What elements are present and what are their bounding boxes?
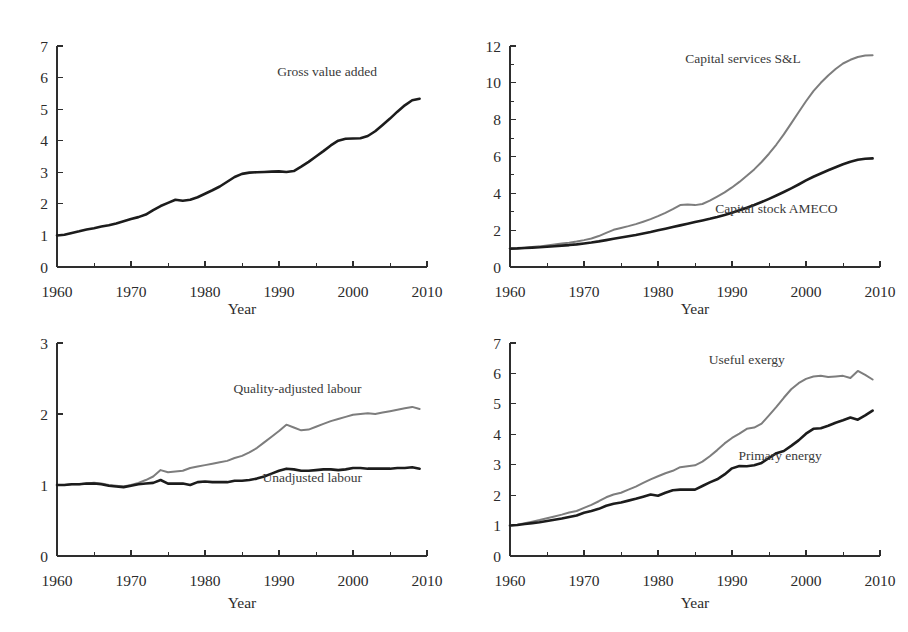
x-axis-title: Year xyxy=(228,594,257,611)
y-tick-label: 12 xyxy=(486,38,502,55)
y-tick-label: 0 xyxy=(493,259,501,276)
x-tick-label: 1980 xyxy=(643,572,674,589)
y-tick-label: 0 xyxy=(40,259,48,276)
panel-bottom-right-plot: 01234567196019701980199020002010Useful e… xyxy=(493,335,896,612)
panel-bottom-left: 0123196019701980199020002010Quality-adju… xyxy=(0,316,454,626)
x-tick-label: 2010 xyxy=(412,283,443,300)
series-annotation: Capital services S&L xyxy=(685,51,800,66)
y-tick-label: 1 xyxy=(493,517,501,534)
panel-top-left: 01234567196019701980199020002010Gross va… xyxy=(0,14,454,316)
y-tick-label: 4 xyxy=(493,185,501,202)
y-tick-label: 3 xyxy=(493,456,501,473)
y-tick-label: 0 xyxy=(40,548,48,565)
y-tick-label: 6 xyxy=(40,69,48,86)
series-annotation: Capital stock AMECO xyxy=(715,201,837,216)
x-tick-label: 1970 xyxy=(569,572,600,589)
x-tick-label: 1990 xyxy=(717,283,748,300)
y-tick-label: 5 xyxy=(40,101,48,118)
x-tick-label: 2000 xyxy=(338,572,369,589)
series-line-capital-services-s-l xyxy=(510,55,873,248)
panel-top-right: 024681012196019701980199020002010Capital… xyxy=(454,14,908,316)
panel-top-left-plot: 01234567196019701980199020002010Gross va… xyxy=(40,38,443,317)
x-tick-label: 1980 xyxy=(190,283,221,300)
y-tick-label: 5 xyxy=(493,395,501,412)
x-tick-label: 1990 xyxy=(717,572,748,589)
x-tick-label: 2000 xyxy=(338,283,369,300)
x-axis-title: Year xyxy=(681,594,710,611)
y-tick-label: 0 xyxy=(493,548,501,565)
panel-bottom-right: 01234567196019701980199020002010Useful e… xyxy=(454,316,908,626)
series-annotation: Quality-adjusted labour xyxy=(234,381,362,396)
x-tick-label: 1980 xyxy=(643,283,674,300)
y-tick-label: 2 xyxy=(40,195,48,212)
y-tick-label: 4 xyxy=(40,132,48,149)
y-tick-label: 2 xyxy=(40,406,48,423)
x-tick-label: 1980 xyxy=(190,572,221,589)
four-panel-chart-figure: 01234567196019701980199020002010Gross va… xyxy=(0,0,908,632)
y-tick-label: 6 xyxy=(493,148,501,165)
x-tick-label: 1990 xyxy=(264,572,295,589)
x-tick-label: 1960 xyxy=(42,283,73,300)
y-tick-label: 8 xyxy=(493,111,501,128)
series-annotation: Gross value added xyxy=(277,64,377,79)
y-tick-label: 10 xyxy=(486,74,502,91)
panel-bottom-left-svg: 0123196019701980199020002010Quality-adju… xyxy=(0,316,454,626)
panel-bottom-right-svg: 01234567196019701980199020002010Useful e… xyxy=(454,316,908,626)
y-tick-label: 2 xyxy=(493,222,501,239)
series-line-primary-energy xyxy=(510,411,873,526)
y-tick-label: 2 xyxy=(493,487,501,504)
y-tick-label: 7 xyxy=(493,335,501,352)
y-tick-label: 3 xyxy=(40,335,48,352)
panel-top-right-svg: 024681012196019701980199020002010Capital… xyxy=(454,14,908,316)
x-tick-label: 2000 xyxy=(791,572,822,589)
x-tick-label: 1960 xyxy=(42,572,73,589)
x-tick-label: 1970 xyxy=(116,283,147,300)
x-tick-label: 2010 xyxy=(865,283,896,300)
series-line-gross-value-added xyxy=(57,99,420,236)
panel-top-left-svg: 01234567196019701980199020002010Gross va… xyxy=(0,14,454,316)
x-tick-label: 1990 xyxy=(264,283,295,300)
y-tick-label: 1 xyxy=(40,227,48,244)
series-annotation: Unadjusted labour xyxy=(263,470,363,485)
x-tick-label: 2000 xyxy=(791,283,822,300)
x-tick-label: 1960 xyxy=(495,283,526,300)
panel-top-right-plot: 024681012196019701980199020002010Capital… xyxy=(486,38,896,317)
panel-bottom-left-plot: 0123196019701980199020002010Quality-adju… xyxy=(40,335,443,612)
x-tick-label: 1970 xyxy=(569,283,600,300)
x-tick-label: 2010 xyxy=(865,572,896,589)
y-tick-label: 4 xyxy=(493,426,501,443)
y-tick-label: 7 xyxy=(40,38,48,55)
x-axis-title: Year xyxy=(681,300,710,316)
x-axis-title: Year xyxy=(228,300,257,316)
y-tick-label: 6 xyxy=(493,365,501,382)
x-tick-label: 1970 xyxy=(116,572,147,589)
y-tick-label: 1 xyxy=(40,477,48,494)
x-tick-label: 1960 xyxy=(495,572,526,589)
series-line-quality-adjusted-labour xyxy=(57,407,420,487)
series-annotation: Primary energy xyxy=(738,448,822,463)
series-annotation: Useful exergy xyxy=(709,352,785,367)
y-tick-label: 3 xyxy=(40,164,48,181)
x-tick-label: 2010 xyxy=(412,572,443,589)
series-line-unadjusted-labour xyxy=(57,467,420,487)
